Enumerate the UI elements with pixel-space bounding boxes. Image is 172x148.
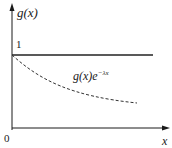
x-axis-label: x	[161, 134, 168, 148]
curve-annotation: g(x)e−λx	[73, 69, 109, 83]
x-axis-arrow-icon	[162, 126, 170, 131]
chart: g(x) 1 0 x g(x)e−λx	[0, 0, 172, 148]
y-tick-one: 1	[16, 38, 22, 50]
y-axis-arrow-icon	[10, 3, 15, 11]
y-axis-label: g(x)	[17, 5, 38, 20]
origin-label: 0	[4, 132, 10, 144]
